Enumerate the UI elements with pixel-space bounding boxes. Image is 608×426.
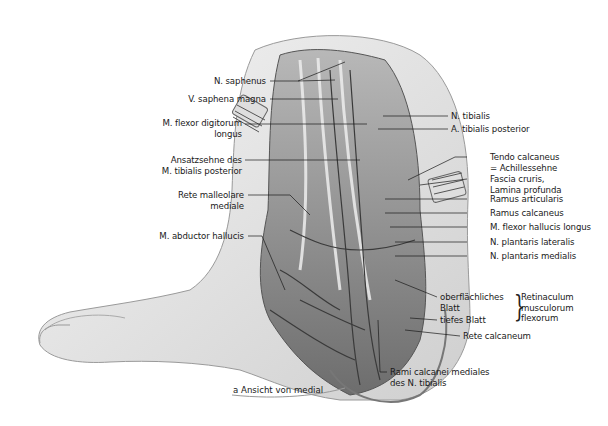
label-tiefes-blatt: tiefes Blatt [440, 315, 486, 326]
label-n-saphenus: N. saphenus [166, 76, 266, 87]
label-rete-malleolare-mediale: Rete malleolaremediale [140, 190, 244, 211]
label-m-flexor-hallucis-longus: M. flexor hallucis longus [490, 222, 591, 233]
label-ansatzsehne-tibialis-posterior: Ansatzsehne desM. tibialis posterior [140, 155, 242, 176]
figure-caption: a Ansicht von medial [233, 385, 323, 395]
label-a-tibialis-posterior: A. tibialis posterior [451, 124, 530, 135]
label-m-flexor-digitorum-longus: M. flexor digitorumlongus [140, 118, 242, 139]
label-ramus-calcaneus: Ramus calcaneus [490, 208, 564, 219]
label-tendo-calcaneus: Tendo calcaneus= Achillessehne [490, 152, 560, 173]
anatomy-figure: N. saphenus V. saphena magna M. flexor d… [0, 0, 608, 426]
label-v-saphena-magna: V. saphena magna [166, 94, 266, 105]
label-retinaculum-musculorum-flexorum: Retinaculummusculorumflexorum [521, 292, 574, 324]
label-oberflaechliches-blatt: oberflächlichesBlatt [440, 292, 504, 313]
label-n-plantaris-medialis: N. plantaris medialis [490, 251, 576, 262]
label-n-plantaris-lateralis: N. plantaris lateralis [490, 237, 574, 248]
label-n-tibialis: N. tibialis [451, 111, 490, 122]
label-rete-calcaneum: Rete calcaneum [463, 331, 531, 342]
label-rami-calcanei-mediales: Rami calcanei medialesdes N. tibialis [390, 367, 489, 388]
label-ramus-articularis: Ramus articularis [490, 194, 563, 205]
label-fascia-cruris: Fascia cruris,Lamina profunda [490, 174, 561, 195]
label-m-abductor-hallucis: M. abductor hallucis [130, 231, 244, 242]
